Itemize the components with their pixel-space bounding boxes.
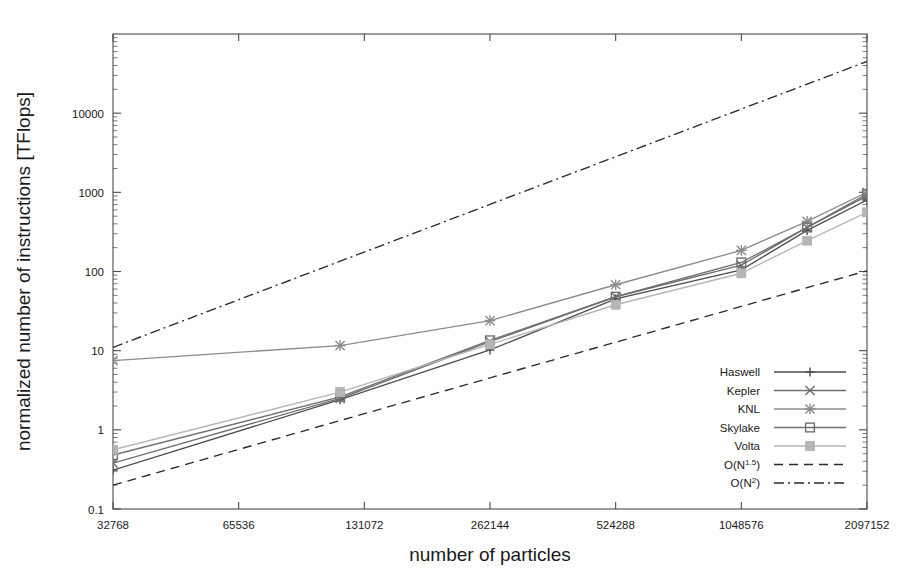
y-axis-label: normalized number of instructions [TFlop… [13,92,34,451]
legend-label: O(N2) [731,476,761,489]
legend-label: Skylake [720,422,760,434]
x-axis-label: number of particles [409,544,571,565]
data-point-marker [610,279,621,290]
y-tick-label: 100 [85,266,104,278]
data-point-marker [335,340,346,351]
legend-label: KNL [738,403,761,415]
x-tick-label: 65536 [223,519,255,531]
data-point-marker [486,340,495,349]
data-point-marker [736,245,747,256]
chart-background [0,0,924,569]
data-point-marker [803,236,812,245]
x-tick-label: 262144 [471,519,510,531]
x-tick-label: 32768 [97,519,129,531]
x-tick-label: 2097152 [845,519,890,531]
log-log-scaling-chart: 3276865536131072262144524288104857620971… [0,0,924,569]
x-tick-label: 1048576 [719,519,764,531]
x-tick-label: 131072 [345,519,383,531]
data-point-marker [737,269,746,278]
data-point-marker [806,442,815,451]
y-tick-label: 10000 [72,108,104,120]
legend-label: Haswell [720,366,760,378]
y-tick-label: 10 [91,345,104,357]
data-point-marker [336,388,345,397]
legend-label: Kepler [727,385,760,397]
data-point-marker [611,300,620,309]
data-point-marker [485,315,496,326]
y-tick-label: 1 [98,424,104,436]
y-tick-label: 1000 [78,187,104,199]
x-tick-label: 524288 [596,519,634,531]
data-point-marker [805,404,816,415]
chart-figure: 3276865536131072262144524288104857620971… [0,0,924,569]
legend-label: Volta [734,440,760,452]
y-tick-label: 0.1 [88,504,104,516]
